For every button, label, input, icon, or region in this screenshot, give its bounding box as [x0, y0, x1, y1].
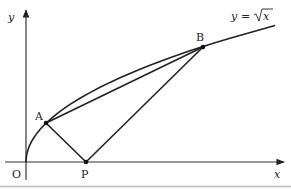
- curve-equation-label: y = x: [230, 9, 273, 23]
- segment-BP: [86, 47, 203, 162]
- point-A: [44, 121, 49, 126]
- label-A: A: [34, 110, 44, 123]
- equation-equals: =: [241, 10, 250, 23]
- label-P: P: [81, 168, 89, 181]
- segment-AP: [46, 123, 86, 162]
- label-y-axis: y: [7, 11, 15, 24]
- sqrt-curve-line: [26, 25, 275, 162]
- label-B: B: [196, 31, 204, 44]
- point-P: [84, 160, 89, 165]
- equation-lhs: y: [230, 10, 238, 23]
- point-B: [201, 45, 206, 50]
- label-x-axis: x: [274, 168, 281, 181]
- segment-AB: [46, 47, 203, 123]
- label-origin: O: [12, 168, 21, 181]
- geometry-diagram: A B P O x y y = x: [0, 0, 291, 189]
- equation-rhs-var: x: [263, 10, 270, 23]
